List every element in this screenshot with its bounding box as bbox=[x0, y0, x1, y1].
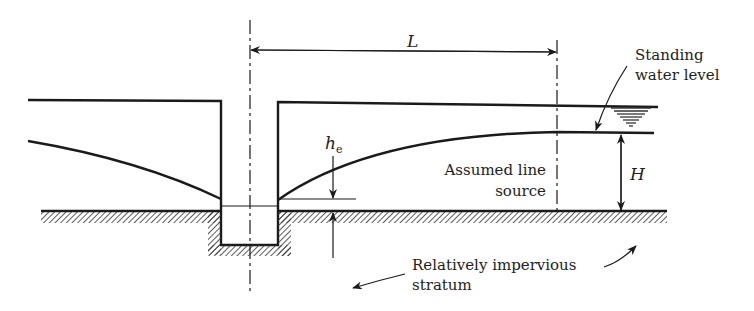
standing-water-label-line1: Standing bbox=[635, 47, 704, 64]
ground-surface bbox=[28, 100, 658, 245]
stratum-leader-right bbox=[604, 246, 636, 267]
stratum-label-line1: Relatively impervious bbox=[412, 257, 576, 274]
line-source-label-line1: Assumed line bbox=[430, 162, 546, 179]
length-label: L bbox=[407, 33, 418, 50]
stratum-leader-left bbox=[353, 274, 405, 288]
impervious-stratum bbox=[41, 211, 667, 256]
stratum-label-line2: stratum bbox=[412, 277, 472, 294]
height-label: H bbox=[630, 166, 645, 183]
head-label: he bbox=[325, 135, 342, 158]
trench-seepage-diagram: L he H Standing water level Assumed line… bbox=[0, 0, 754, 311]
length-dimension bbox=[251, 50, 556, 52]
head-dimension bbox=[280, 156, 356, 258]
standing-water-leader bbox=[596, 66, 627, 130]
line-source-label-line2: source bbox=[430, 183, 546, 200]
standing-water-label-line2: water level bbox=[635, 67, 719, 84]
water-level-symbol-icon bbox=[611, 108, 651, 126]
drawdown-curve-left bbox=[28, 141, 221, 199]
head-symbol: h bbox=[325, 133, 336, 153]
head-subscript: e bbox=[336, 143, 343, 156]
